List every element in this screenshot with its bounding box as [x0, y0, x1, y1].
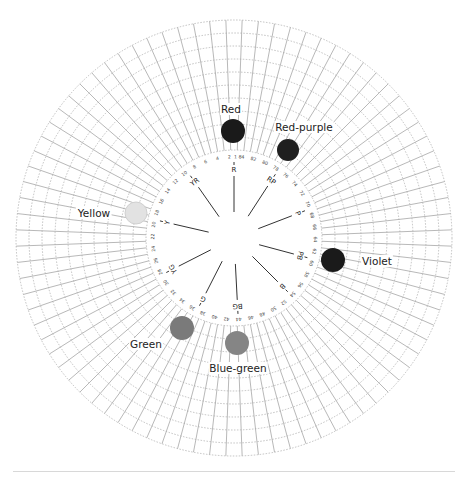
hue-number: 56 — [297, 281, 305, 289]
sample-dot-red-purple — [277, 139, 299, 161]
hue-number: 80 — [261, 159, 268, 166]
hue-spoke — [248, 186, 268, 216]
hue-number: 78 — [272, 165, 280, 172]
hue-number: 54 — [289, 290, 297, 298]
sample-label-yellow: Yellow — [77, 207, 111, 219]
hue-number: 4 — [215, 156, 219, 162]
hue-number: 20 — [151, 221, 157, 228]
hue-label-pb: PB — [295, 250, 305, 261]
hue-number: 52 — [280, 299, 288, 307]
hue-label-rp: RP — [265, 175, 277, 187]
hue-number: 12 — [172, 178, 180, 186]
hue-number: 82 — [250, 156, 257, 162]
hue-label-b: B — [277, 282, 286, 291]
hue-spoke — [179, 250, 211, 266]
hue-spoke — [235, 264, 237, 300]
hue-spoke — [258, 216, 292, 229]
hue-number: 34 — [178, 297, 186, 305]
hue-label-g: G — [199, 294, 207, 304]
hue-number: 40 — [211, 314, 218, 320]
hue-spoke-tick — [160, 221, 163, 222]
hue-number: 24 — [151, 245, 157, 252]
hue-number: 30 — [162, 279, 169, 287]
hue-number: 18 — [154, 209, 161, 216]
hue-number: 32 — [170, 288, 178, 296]
hue-number: 14 — [164, 187, 172, 195]
hue-label-r: R — [232, 166, 237, 174]
grid-radial-line — [59, 290, 164, 367]
hue-number: 58 — [303, 271, 310, 279]
sample-dot-blue-green — [225, 331, 249, 355]
hue-number: 64 — [313, 236, 318, 242]
sample-dot-violet — [321, 248, 345, 272]
grid-radial-line — [59, 109, 164, 186]
hue-number: 10 — [181, 170, 189, 178]
grid-radial-lines — [16, 20, 452, 456]
hue-number: 2 — [228, 154, 231, 159]
grid-radial-line — [210, 325, 225, 454]
hue-spoke-tick — [166, 271, 169, 272]
sample-label-green: Green — [130, 338, 162, 350]
sample-label-blue-green: Blue-green — [209, 362, 266, 374]
hue-spoke-tick — [286, 290, 288, 292]
hue-spoke-tick — [274, 174, 276, 177]
hue-number: 48 — [259, 311, 266, 318]
hue-label-y: Y — [163, 219, 172, 227]
grid-radial-line — [315, 273, 434, 325]
hue-label-bg: BG — [232, 302, 243, 311]
sample-label-red-purple: Red-purple — [275, 121, 332, 133]
grid-radial-line — [321, 214, 450, 229]
hue-number: 84 — [238, 154, 244, 160]
grid-radial-line — [105, 63, 182, 168]
hue-number: 36 — [188, 304, 196, 311]
hue-spoke — [198, 187, 219, 216]
hue-spoke — [206, 261, 222, 293]
hue-spoke-tick — [190, 176, 192, 178]
sample-label-violet: Violet — [362, 255, 392, 267]
sample-dot-red — [221, 119, 245, 143]
hue-spokes — [160, 162, 307, 314]
hue-number: 44 — [236, 316, 242, 321]
hue-number: 70 — [304, 200, 311, 207]
grid-radial-line — [286, 309, 363, 414]
grid-radial-line — [312, 136, 427, 197]
hue-number: 60 — [308, 260, 315, 267]
hue-number: 62 — [311, 248, 317, 255]
hue-label-p: P — [293, 210, 302, 217]
hue-label-yr: YR — [188, 176, 201, 188]
hue-number: 1 — [234, 154, 237, 159]
sample-dot-yellow — [125, 202, 147, 224]
hue-number: 76 — [282, 172, 290, 180]
hue-spoke-tick — [199, 303, 200, 306]
hue-spoke — [259, 245, 294, 254]
hue-number: 72 — [298, 190, 305, 198]
hue-number: 38 — [199, 310, 206, 317]
grid-radial-line — [41, 136, 156, 197]
hue-number: 28 — [157, 268, 164, 275]
hue-number: 66 — [312, 224, 318, 231]
sample-dot-green — [170, 316, 194, 340]
hue-number: 6 — [203, 159, 208, 165]
hue-number: 50 — [270, 305, 278, 312]
grid-radial-line — [244, 21, 259, 150]
hue-number: 42 — [223, 316, 229, 322]
hue-number: 26 — [153, 257, 159, 264]
hue-number: 16 — [158, 198, 165, 206]
grid-radial-line — [312, 279, 427, 340]
hue-spoke — [174, 224, 209, 232]
hue-spoke-tick — [305, 257, 308, 258]
sample-label-red: Red — [221, 103, 241, 115]
hue-number: 8 — [192, 164, 197, 170]
hue-number: 46 — [247, 314, 254, 320]
hue-number: 22 — [150, 234, 155, 240]
munsell-hue-wheel-diagram: 1246810121416182022242628303234363840424… — [0, 0, 468, 487]
bottom-divider — [13, 471, 455, 472]
hue-spoke-tick — [302, 211, 305, 212]
hue-number: 74 — [291, 180, 299, 188]
hue-number: 68 — [309, 212, 315, 219]
hue-label-yg: YG — [168, 263, 180, 276]
hue-spoke — [252, 256, 277, 281]
